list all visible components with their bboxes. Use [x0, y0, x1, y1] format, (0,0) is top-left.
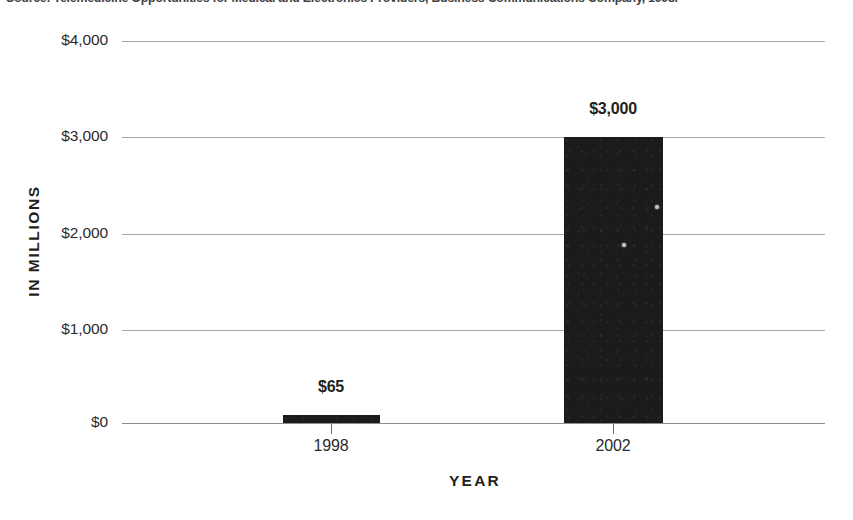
xtick-2002 — [613, 424, 614, 434]
gridline-2000 — [122, 234, 825, 235]
scan-artifact-speck — [622, 243, 626, 247]
ytick-label-1000: $1,000 — [12, 320, 108, 338]
ytick-3000: $3,000 — [0, 127, 108, 147]
bar-2002[interactable] — [564, 137, 663, 423]
gridline-1000 — [122, 330, 825, 331]
xtick-label-2002: 2002 — [553, 437, 673, 455]
scan-artifact-speck — [655, 205, 659, 209]
ytick-0: $0 — [0, 413, 108, 433]
axis-baseline-0 — [122, 423, 825, 424]
gridline-3000 — [122, 137, 825, 138]
xtick-label-1998: 1998 — [271, 437, 391, 455]
bar-1998[interactable] — [283, 415, 380, 423]
gridline-4000 — [122, 41, 825, 42]
ytick-label-0: $0 — [12, 413, 108, 431]
bar-value-label-2002: $3,000 — [553, 100, 673, 118]
bar-value-label-1998: $65 — [271, 378, 391, 396]
bar-chart-plot-area: $4,000 $3,000 $2,000 $1,000 $0 IN MILLIO… — [0, 0, 853, 520]
y-axis-title: IN MILLIONS — [25, 171, 43, 311]
ytick-label-3000: $3,000 — [12, 127, 108, 145]
ytick-label-4000: $4,000 — [12, 31, 108, 49]
x-axis-title: YEAR — [395, 472, 555, 490]
ytick-2000: $2,000 — [0, 224, 108, 244]
xtick-1998 — [331, 424, 332, 434]
ytick-1000: $1,000 — [0, 320, 108, 340]
ytick-4000: $4,000 — [0, 31, 108, 51]
